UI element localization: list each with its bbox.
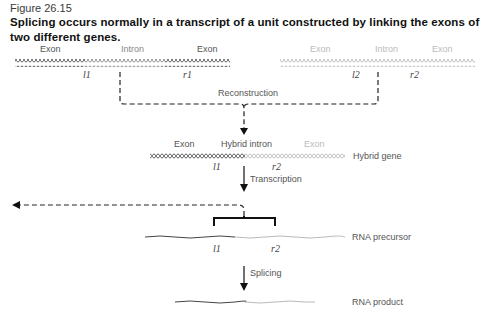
gene2-exon-left-label: Exon: [310, 44, 331, 54]
splicing-label: Splicing: [250, 268, 282, 278]
dashed-left-arrow: [12, 201, 244, 216]
gene1-exon-left-label: Exon: [40, 44, 61, 54]
hybrid-r2-label: r2: [272, 161, 281, 172]
gene1-l1-label: l1: [83, 69, 91, 80]
hybrid-l1-label: l1: [213, 161, 221, 172]
hybrid-exon-right-label: Exon: [304, 139, 325, 149]
reconstruction-arrowhead: [240, 128, 248, 135]
rna-product-strand: [175, 301, 315, 303]
transcription-label: Transcription: [250, 174, 302, 184]
rna-product-label: RNA product: [352, 297, 403, 307]
reconstruction-label: Reconstruction: [218, 88, 278, 98]
hybrid-exon-left-label: Exon: [174, 139, 195, 149]
precursor-l1-label: l1: [213, 243, 221, 254]
reconstruction-lines: [120, 72, 378, 128]
gene1-dna: [15, 59, 230, 67]
gene2-dna: [280, 59, 475, 67]
splice-bracket: [214, 216, 275, 226]
gene2-intron-label: Intron: [375, 44, 398, 54]
figure-caption: Splicing occurs normally in a transcript…: [10, 15, 500, 45]
hybrid-gene-dna: [150, 152, 345, 160]
rna-precursor-strand: [145, 236, 345, 238]
hybrid-intron-label: Hybrid intron: [221, 139, 272, 149]
gene2-r2-label: r2: [410, 69, 419, 80]
rna-precursor-label: RNA precursor: [352, 232, 411, 242]
splicing-arrow: [240, 266, 248, 291]
gene2-exon-right-label: Exon: [432, 44, 453, 54]
gene2-l2-label: l2: [352, 69, 360, 80]
gene1-exon-right-label: Exon: [197, 44, 218, 54]
figure-number: Figure 26.15: [10, 2, 72, 14]
gene1-r1-label: r1: [183, 69, 192, 80]
precursor-r2-label: r2: [271, 243, 280, 254]
transcription-arrow: [240, 166, 248, 192]
gene1-intron-label: Intron: [121, 44, 144, 54]
hybrid-gene-label: Hybrid gene: [353, 151, 402, 161]
